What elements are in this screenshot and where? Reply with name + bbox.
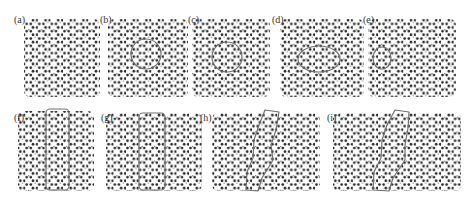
lattice-panel-b	[108, 19, 188, 97]
panel-label-e: (e)	[363, 15, 374, 25]
lattice-panel-h	[212, 113, 320, 191]
lattice-panel-a	[24, 19, 100, 97]
panel-label-h: (h)	[200, 113, 212, 123]
panel-label-b: (b)	[100, 15, 112, 25]
lattice-panel-f	[18, 111, 94, 191]
lattice-panel-c	[192, 19, 270, 97]
lattice-group	[18, 19, 461, 191]
figure: (a)(b)(c)(d)(e)(f)(g)(h)(i)	[0, 0, 473, 202]
lattice-panel-g	[106, 113, 202, 191]
panel-label-f: (f)	[14, 113, 24, 123]
panel-label-d: (d)	[272, 15, 284, 25]
lattice-canvas	[0, 0, 473, 202]
panel-label-c: (c)	[188, 15, 199, 25]
panel-label-i: (i)	[327, 113, 336, 123]
lattice-panel-d	[280, 19, 364, 97]
lattice-panel-i	[333, 113, 461, 191]
lattice-panel-e	[368, 19, 456, 97]
panel-label-a: (a)	[14, 15, 25, 25]
panel-label-g: (g)	[101, 113, 113, 123]
